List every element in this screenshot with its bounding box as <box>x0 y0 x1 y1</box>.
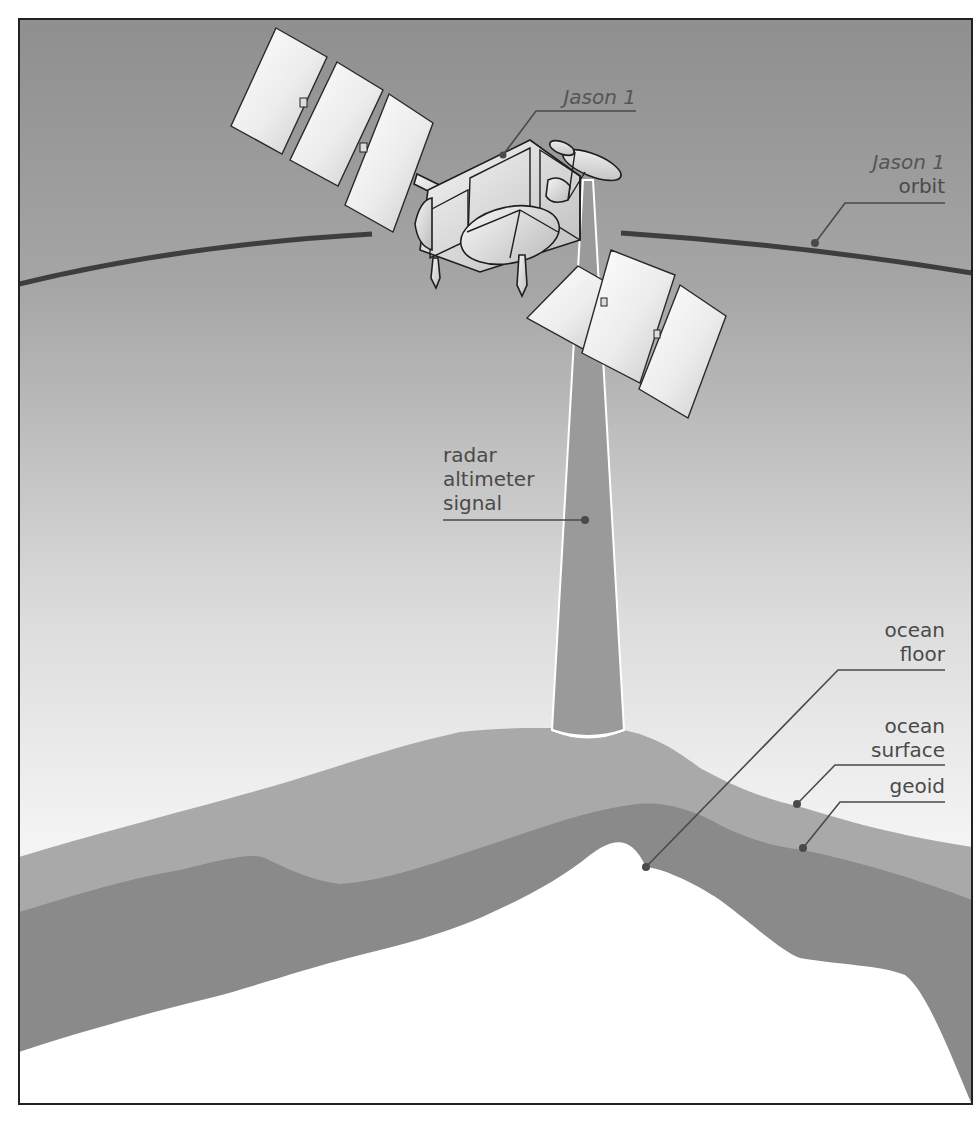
label-orbit-line1: Jason 1 <box>868 150 945 174</box>
label-geoid: geoid <box>890 774 946 798</box>
label-floor-line1: ocean <box>885 618 945 642</box>
label-surface-line2: surface <box>871 738 945 762</box>
label-signal-line1: radar <box>443 443 497 467</box>
label-signal-line3: signal <box>443 491 502 515</box>
jason1-altimetry-diagram: Jason 1 Jason 1 orbit radar altimeter si… <box>0 0 979 1124</box>
label-orbit-line2: orbit <box>898 174 945 198</box>
label-surface-line1: ocean <box>885 714 945 738</box>
label-floor-line2: floor <box>900 642 946 666</box>
label-satellite: Jason 1 <box>559 85 636 109</box>
label-signal-line2: altimeter <box>443 467 535 491</box>
